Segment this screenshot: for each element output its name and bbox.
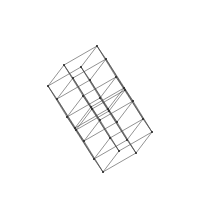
hypercube-vertex <box>126 139 128 141</box>
hypercube-vertex <box>96 45 98 47</box>
hypercube-vertex <box>151 131 153 133</box>
hypercube-vertex <box>99 119 101 121</box>
hypercube-vertex <box>115 76 117 78</box>
hypercube-vertex <box>56 98 58 100</box>
hypercube-vertex <box>63 64 65 66</box>
hypercube-vertex <box>108 110 110 112</box>
hypercube-vertex <box>135 152 137 154</box>
hypercube-vertex <box>118 150 120 152</box>
hypercube-vertex <box>132 100 134 102</box>
hypercube-vertex <box>91 108 93 110</box>
hypercube-vertex <box>142 118 144 120</box>
hypercube-vertex <box>116 121 118 123</box>
hypercube-vertex <box>105 58 107 60</box>
hypercube-vertex <box>90 106 92 108</box>
hypercube-vertex <box>123 87 125 89</box>
figure-canvas <box>0 0 200 218</box>
figure-background <box>0 0 200 218</box>
hypercube-vertex <box>102 171 104 173</box>
hypercube-vertex <box>109 137 111 139</box>
hypercube-vertex <box>66 116 68 118</box>
hypercube-vertex <box>75 129 77 131</box>
hypercube-vertex <box>74 127 76 129</box>
hypercube-vertex <box>72 77 74 79</box>
hypercube-vertex <box>82 95 84 97</box>
hypercube-vertex <box>80 66 82 68</box>
hypercube-vertex <box>107 108 109 110</box>
hypercube-vertex <box>99 97 101 99</box>
hypercube-vertex <box>124 89 126 91</box>
hypercube-wireframe-svg <box>0 0 200 218</box>
hypercube-vertex <box>83 140 85 142</box>
hypercube-vertex <box>47 85 49 87</box>
hypercube-vertex <box>93 158 95 160</box>
hypercube-vertex <box>89 79 91 81</box>
